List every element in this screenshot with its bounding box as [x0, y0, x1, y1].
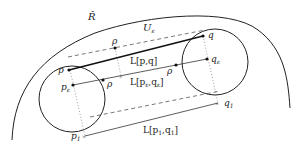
- diagram: × × × R̂ Uε p q pε qε p1 q1 ρ ρ ρ L[p,q]…: [0, 0, 301, 153]
- left-circle: [39, 66, 105, 132]
- point-rho-left: [101, 78, 104, 81]
- perp-mid: [115, 48, 121, 76]
- label-peps: pε: [61, 82, 70, 93]
- label-qeps: qε: [211, 54, 220, 65]
- point-q: [201, 34, 204, 37]
- point-rho-top: [113, 46, 116, 49]
- label-L-pq: L[p,q]: [130, 56, 157, 66]
- tube-label: Uε: [143, 22, 155, 34]
- point-p1-mark: ×: [82, 133, 86, 141]
- perp-left: [70, 70, 85, 136]
- label-rho-top: ρ: [111, 36, 118, 46]
- point-rho-right: [174, 63, 177, 66]
- label-rho-left: ρ: [106, 79, 113, 89]
- point-q1-mark: ×: [215, 100, 219, 108]
- region-label: R̂: [87, 11, 96, 22]
- label-p1: p1: [71, 131, 81, 142]
- label-q1: q1: [224, 98, 234, 109]
- label-rho-right: ρ: [166, 66, 173, 76]
- label-L-peps-qeps: L[pε,qε]: [130, 77, 164, 88]
- tube-bottom: [90, 91, 220, 117]
- label-L-p1-q1: L[p1,q1]: [143, 125, 178, 136]
- label-p: p: [58, 65, 64, 75]
- label-q: q: [208, 30, 214, 40]
- point-p: [67, 68, 70, 71]
- point-mid-mark: ×: [119, 74, 122, 80]
- point-qeps: [205, 57, 208, 60]
- point-peps: [71, 83, 74, 86]
